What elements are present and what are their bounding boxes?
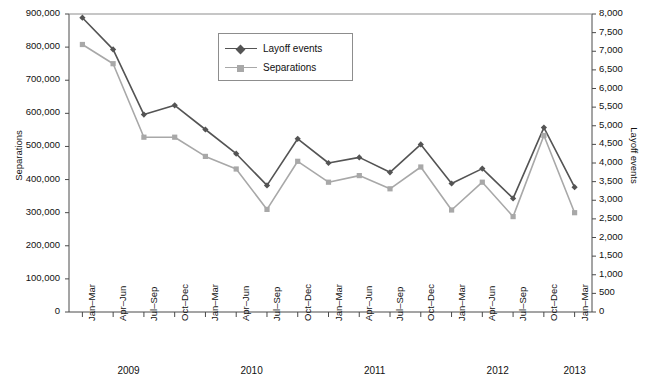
y-axis-left-tick: 200,000 bbox=[0, 239, 60, 250]
y-axis-right-tick: 7,000 bbox=[599, 44, 623, 55]
x-axis-year-label: 2013 bbox=[545, 365, 605, 376]
x-axis-year-label: 2010 bbox=[222, 365, 282, 376]
x-axis-tick-label: Jan–Mar bbox=[333, 284, 344, 321]
x-axis-tick-label: Jul–Sep bbox=[394, 287, 405, 321]
y-axis-right-tick: 3,500 bbox=[599, 175, 623, 186]
x-axis-tick-label: Jan–Mar bbox=[86, 284, 97, 321]
y-axis-right-tick: 5,000 bbox=[599, 119, 623, 130]
y-axis-left-tick: 0 bbox=[0, 305, 60, 316]
legend-item-separations: Separations bbox=[225, 58, 346, 77]
x-axis-tick-label: Apr–Jun bbox=[240, 286, 251, 321]
y-axis-left-tick: 500,000 bbox=[0, 139, 60, 150]
chart-container: Separations Layoff events Layoff events … bbox=[0, 0, 650, 387]
y-axis-right-tick: 2,000 bbox=[599, 231, 623, 242]
y-axis-right-tick: 2,500 bbox=[599, 212, 623, 223]
y-axis-right-tick: 6,000 bbox=[599, 82, 623, 93]
chart-legend: Layoff events Separations bbox=[218, 33, 353, 81]
x-axis-tick-label: Apr–Jun bbox=[486, 286, 497, 321]
x-axis-tick-label: Jul–Sep bbox=[517, 287, 528, 321]
x-axis-tick-label: Jul–Sep bbox=[271, 287, 282, 321]
legend-label-layoff-events: Layoff events bbox=[263, 43, 322, 54]
diamond-marker-icon bbox=[236, 44, 246, 54]
y-axis-right-tick: 4,500 bbox=[599, 137, 623, 148]
y-axis-right-tick: 6,500 bbox=[599, 63, 623, 74]
x-axis-tick-label: Oct–Dec bbox=[548, 284, 559, 321]
y-axis-left-tick: 400,000 bbox=[0, 173, 60, 184]
legend-swatch-separations bbox=[225, 62, 257, 74]
y-axis-left-tick: 900,000 bbox=[0, 7, 60, 18]
legend-item-layoff-events: Layoff events bbox=[225, 39, 346, 58]
y-axis-left-tick: 600,000 bbox=[0, 106, 60, 117]
y-axis-right-tick: 4,000 bbox=[599, 156, 623, 167]
x-axis-year-label: 2011 bbox=[345, 365, 405, 376]
y-axis-right-tick: 5,500 bbox=[599, 100, 623, 111]
y-axis-left-tick: 100,000 bbox=[0, 272, 60, 283]
y-axis-right-tick: 1,000 bbox=[599, 268, 623, 279]
x-axis-tick-label: Oct–Dec bbox=[425, 284, 436, 321]
x-axis-tick-label: Jan–Mar bbox=[456, 284, 467, 321]
legend-label-separations: Separations bbox=[263, 62, 316, 73]
x-axis-tick-label: Oct–Dec bbox=[302, 284, 313, 321]
y-axis-right-tick: 3,000 bbox=[599, 193, 623, 204]
y-axis-right-tick: 0 bbox=[599, 305, 604, 316]
y-axis-left-tick: 700,000 bbox=[0, 73, 60, 84]
y-axis-right-tick: 1,500 bbox=[599, 249, 623, 260]
y-axis-right-tick: 500 bbox=[599, 286, 615, 297]
x-axis-tick-label: Jan–Mar bbox=[209, 284, 220, 321]
legend-swatch-layoff-events bbox=[225, 43, 257, 55]
x-axis-year-label: 2012 bbox=[468, 365, 528, 376]
y-axis-right-tick: 8,000 bbox=[599, 7, 623, 18]
x-axis-year-label: 2009 bbox=[99, 365, 159, 376]
x-axis-tick-label: Apr–Jun bbox=[363, 286, 374, 321]
y-axis-left-tick: 300,000 bbox=[0, 206, 60, 217]
x-axis-tick-label: Jul–Sep bbox=[148, 287, 159, 321]
y-axis-left-tick: 800,000 bbox=[0, 40, 60, 51]
x-axis-tick-label: Apr–Jun bbox=[117, 286, 128, 321]
x-axis-tick-label: Oct–Dec bbox=[179, 284, 190, 321]
y-axis-right-tick: 7,500 bbox=[599, 26, 623, 37]
x-axis-tick-label: Jan–Mar bbox=[579, 284, 590, 321]
square-marker-icon bbox=[237, 65, 244, 72]
